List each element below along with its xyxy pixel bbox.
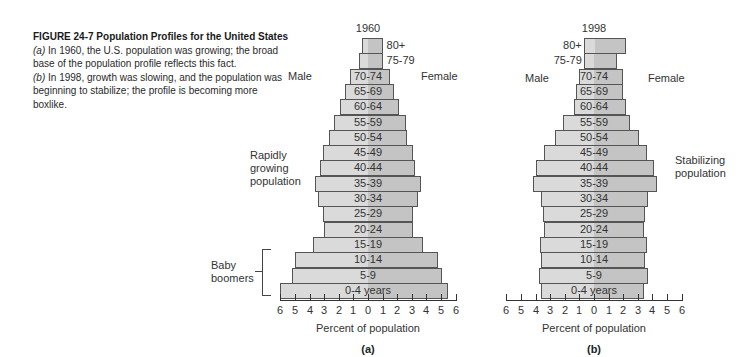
tick-mark (623, 294, 624, 301)
age-label: 5-9 (586, 268, 602, 283)
age-label: 80+ (563, 38, 582, 53)
tick-label: 1 (606, 304, 612, 316)
age-label: 25-29 (580, 206, 608, 221)
female-segment (594, 54, 616, 68)
tick-label: 2 (620, 304, 626, 316)
tick-mark (521, 294, 522, 301)
tick-label: 4 (533, 304, 539, 316)
tick-mark (594, 294, 595, 301)
tick-mark (652, 294, 653, 301)
age-label: 50-54 (580, 130, 608, 145)
panel-label: (b) (587, 343, 601, 355)
age-label: 15-19 (580, 237, 608, 252)
male-segment (585, 39, 595, 53)
tick-mark (579, 294, 580, 301)
tick-label: 6 (679, 304, 685, 316)
tick-label: 2 (562, 304, 568, 316)
bar-age-80plus (584, 38, 626, 54)
annotation-line: population (675, 167, 726, 180)
age-label: 20-24 (580, 222, 608, 237)
age-label: 60-64 (580, 99, 608, 114)
tick-label: 5 (518, 304, 524, 316)
male-label: Male (525, 72, 549, 84)
tick-mark (667, 294, 668, 301)
age-label: 55-59 (580, 115, 608, 130)
pyramid-1998: 1998 Male Female Stabilizing population … (0, 0, 743, 357)
annotation-stabilizing: Stabilizing population (675, 154, 726, 180)
chart-year: 1998 (582, 22, 606, 34)
age-label: 35-39 (580, 176, 608, 191)
age-label: 45-49 (580, 145, 608, 160)
age-label: 30-34 (580, 191, 608, 206)
age-label: 40-44 (580, 160, 608, 175)
tick-mark (609, 294, 610, 301)
tick-mark (565, 294, 566, 301)
bar-age-75-79 (584, 53, 618, 69)
age-label: 70-74 (580, 69, 608, 84)
annotation-line: Stabilizing (675, 154, 726, 167)
age-label: 65-69 (580, 84, 608, 99)
tick-label: 3 (635, 304, 641, 316)
tick-mark (536, 294, 537, 301)
tick-mark (682, 294, 683, 301)
male-segment (585, 54, 595, 68)
age-label: 75-79 (554, 53, 582, 68)
tick-mark (638, 294, 639, 301)
age-label: 10-14 (580, 252, 608, 267)
tick-mark (506, 294, 507, 301)
tick-label: 1 (576, 304, 582, 316)
x-axis-label: Percent of population (542, 322, 646, 334)
tick-label: 6 (503, 304, 509, 316)
female-label: Female (648, 72, 685, 84)
tick-label: 4 (649, 304, 655, 316)
female-segment (595, 39, 626, 53)
tick-label: 0 (591, 304, 597, 316)
tick-mark (550, 294, 551, 301)
tick-label: 3 (547, 304, 553, 316)
tick-label: 5 (664, 304, 670, 316)
